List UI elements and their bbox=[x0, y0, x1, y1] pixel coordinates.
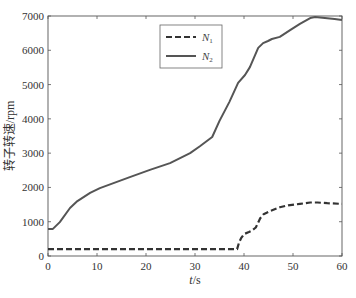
legend: N1N2 bbox=[160, 25, 222, 68]
y-tick-label: 3000 bbox=[22, 147, 45, 159]
y-axis-label: 转子转速/rpm bbox=[2, 100, 17, 171]
rotor-speed-chart: 0102030405060010002000300040005000600070… bbox=[0, 0, 356, 298]
x-tick-label: 30 bbox=[190, 260, 202, 272]
y-tick-label: 5000 bbox=[22, 79, 45, 91]
y-tick-label: 0 bbox=[39, 250, 45, 262]
y-tick-label: 7000 bbox=[22, 10, 45, 22]
y-tick-label: 6000 bbox=[22, 44, 45, 56]
x-axis-label: t/s bbox=[189, 273, 201, 287]
x-tick-label: 40 bbox=[239, 260, 251, 272]
y-tick-label: 4000 bbox=[22, 113, 45, 125]
x-tick-label: 20 bbox=[141, 260, 153, 272]
series-n1 bbox=[48, 203, 342, 250]
x-tick-label: 10 bbox=[92, 260, 104, 272]
x-tick-label: 0 bbox=[45, 260, 51, 272]
y-tick-label: 2000 bbox=[22, 181, 45, 193]
x-tick-label: 50 bbox=[288, 260, 300, 272]
x-tick-label: 60 bbox=[337, 260, 349, 272]
y-tick-label: 1000 bbox=[22, 216, 45, 228]
